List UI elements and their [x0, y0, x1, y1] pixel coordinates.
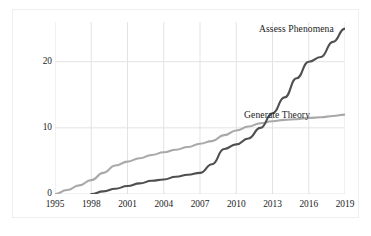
x-tick-label: 1995	[35, 200, 75, 209]
x-tick-label: 2019	[325, 200, 365, 209]
x-tick-label: 2004	[144, 200, 184, 209]
x-tick-label: 2010	[216, 200, 256, 209]
x-tick-label: 2013	[253, 200, 293, 209]
y-tick-label: 0	[30, 189, 52, 198]
plot-area	[55, 22, 345, 194]
y-axis-label: Cumulative number of studies	[0, 0, 1, 16]
figure-container: Cumulative number of studies 01020 19951…	[0, 0, 371, 236]
line-chart	[55, 22, 345, 194]
series-label-generate-theory: Generate Theory	[244, 109, 310, 120]
x-tick-label: 2016	[289, 200, 329, 209]
x-tick-label: 2001	[108, 200, 148, 209]
y-tick-label: 20	[30, 57, 52, 66]
series-label-assess-phenomena: Assess Phenomena	[259, 23, 334, 34]
x-tick-label: 1998	[71, 200, 111, 209]
x-tick-label: 2007	[180, 200, 220, 209]
y-axis-ticks: 01020	[26, 22, 52, 194]
gridlines	[55, 22, 345, 194]
y-tick-label: 10	[30, 123, 52, 132]
x-axis-ticks: 199519982001200420072010201320162019	[55, 197, 345, 215]
